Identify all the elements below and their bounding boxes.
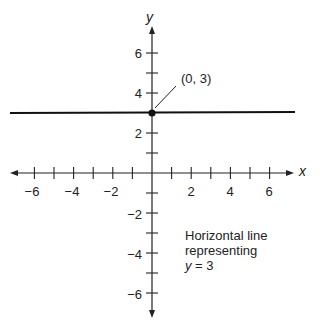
x-axis-label: x xyxy=(299,164,306,178)
x-axis-right-arrow-icon xyxy=(286,170,294,176)
y-axis xyxy=(146,26,158,318)
x-axis-left-arrow-icon xyxy=(10,170,18,176)
plot-canvas xyxy=(0,0,320,331)
point-0-3 xyxy=(148,109,155,116)
annotation-line-2: representing xyxy=(185,243,267,258)
x-tick-label: −6 xyxy=(25,185,40,198)
y-tick-label: −2 xyxy=(127,208,142,221)
y-tick-label: 6 xyxy=(135,47,142,60)
y-axis-up-arrow-icon xyxy=(149,26,155,34)
x-tick-label: 6 xyxy=(265,185,272,198)
y-tick-label: 4 xyxy=(135,87,142,100)
x-tick-label: −4 xyxy=(65,185,80,198)
y-tick-label: −4 xyxy=(127,248,142,261)
point-leader-line xyxy=(155,86,176,108)
x-tick-label: 2 xyxy=(187,185,194,198)
annotation-line-3: y = 3 xyxy=(185,258,267,273)
x-tick-label: 4 xyxy=(226,185,233,198)
annotation-line-1: Horizontal line xyxy=(185,228,267,243)
y-axis-down-arrow-icon xyxy=(149,310,155,318)
annotation-equation: = 3 xyxy=(192,258,214,273)
x-tick-label: −2 xyxy=(104,185,119,198)
point-label: (0, 3) xyxy=(181,72,211,85)
annotation-note: Horizontal line representing y = 3 xyxy=(185,228,267,273)
y-tick-label: 2 xyxy=(135,127,142,140)
y-axis-label: y xyxy=(146,10,153,24)
y-tick-label: −6 xyxy=(127,288,142,301)
